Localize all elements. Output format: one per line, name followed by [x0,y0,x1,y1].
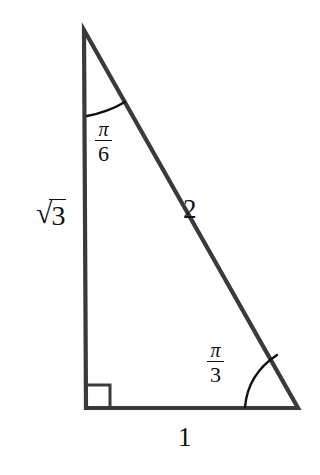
fraction-pi-over-3: π 3 [207,340,224,386]
side-label-hypotenuse: 2 [183,196,197,223]
side-label-horizontal-leg: 1 [178,424,192,451]
angle-arc-top-icon [87,102,125,116]
radicand-value: 3 [49,199,66,230]
side-label-vertical-leg: √3 [36,199,66,230]
fraction-denominator: 3 [207,363,224,386]
angle-label-bottom-right: π 3 [207,340,224,386]
triangle-diagram [0,0,320,475]
figure-canvas: √3 2 1 π 6 π 3 [0,0,320,475]
fraction-denominator: 6 [95,142,112,165]
angle-label-top: π 6 [95,119,112,165]
fraction-numerator: π [207,340,224,361]
fraction-numerator: π [95,119,112,140]
right-angle-square-icon [88,385,110,407]
fraction-pi-over-6: π 6 [95,119,112,165]
